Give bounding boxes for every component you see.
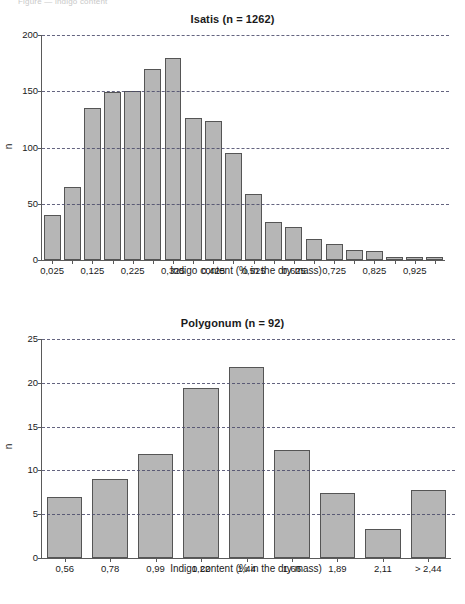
bar	[47, 497, 82, 558]
x-tick-mark	[193, 260, 194, 264]
x-tick-mark	[334, 260, 335, 264]
y-tick-mark	[38, 514, 42, 515]
x-tick-mark	[415, 260, 416, 264]
gridline	[42, 204, 449, 205]
chart-title-polygonum: Polygonum (n = 92)	[0, 316, 465, 330]
x-tick-mark	[113, 260, 114, 264]
y-tick-label: 0	[8, 255, 38, 265]
gridline	[42, 339, 455, 340]
y-tick-mark	[38, 35, 42, 36]
x-tick-mark	[156, 558, 157, 562]
y-tick-label: 100	[8, 143, 38, 153]
x-tick-mark	[274, 260, 275, 264]
x-tick-mark	[292, 558, 293, 562]
y-tick-mark	[38, 558, 42, 559]
x-tick-mark	[92, 260, 93, 264]
y-tick-mark	[38, 339, 42, 340]
x-tick-mark	[247, 558, 248, 562]
plot-wrapper-isatis: n 0501001502000,0250,1250,2250,3250,4250…	[0, 29, 465, 267]
bar	[285, 227, 302, 260]
y-tick-label: 20	[8, 378, 38, 388]
bar	[144, 69, 161, 260]
bar	[411, 490, 446, 558]
bar	[346, 250, 363, 260]
x-tick-mark	[254, 260, 255, 264]
bar	[165, 58, 182, 261]
x-tick-mark	[233, 260, 234, 264]
y-tick-mark	[38, 148, 42, 149]
bar	[274, 450, 309, 558]
plot-area-isatis: 0501001502000,0250,1250,2250,3250,4250,5…	[41, 35, 445, 261]
cut-off-page-header: Figure — indigo content	[18, 0, 238, 6]
x-tick-mark	[72, 260, 73, 264]
bar	[265, 222, 282, 260]
gridline	[42, 427, 455, 428]
x-tick-mark	[133, 260, 134, 264]
y-tick-mark	[38, 383, 42, 384]
bar	[306, 239, 323, 260]
x-tick-mark	[52, 260, 53, 264]
gridline	[42, 514, 455, 515]
bar	[44, 215, 61, 260]
bar	[320, 493, 355, 558]
x-tick-mark	[435, 260, 436, 264]
y-tick-mark	[38, 91, 42, 92]
y-tick-label: 25	[8, 334, 38, 344]
y-tick-label: 50	[8, 199, 38, 209]
plot-area-polygonum: 05101520250,560,780,991,221,441,661,892,…	[41, 339, 451, 559]
x-tick-mark	[173, 260, 174, 264]
bar	[124, 91, 141, 260]
x-tick-mark	[337, 558, 338, 562]
x-tick-mark	[153, 260, 154, 264]
bar	[326, 244, 343, 260]
bar	[205, 121, 222, 261]
x-tick-mark	[65, 558, 66, 562]
x-tick-mark	[354, 260, 355, 264]
gridline	[42, 383, 455, 384]
x-tick-mark	[213, 260, 214, 264]
x-axis-label-isatis: Indigo content (% in the dry mass)	[41, 265, 451, 276]
y-tick-label: 15	[8, 422, 38, 432]
x-tick-mark	[428, 558, 429, 562]
gridline	[42, 148, 449, 149]
x-tick-mark	[201, 558, 202, 562]
bar	[366, 251, 383, 260]
y-tick-mark	[38, 260, 42, 261]
y-tick-mark	[38, 204, 42, 205]
y-tick-label: 5	[8, 509, 38, 519]
bar	[84, 108, 101, 260]
y-tick-label: 10	[8, 466, 38, 476]
chart-polygonum: Polygonum (n = 92) n 05101520250,560,780…	[0, 316, 465, 604]
x-tick-mark	[374, 260, 375, 264]
y-tick-mark	[38, 427, 42, 428]
y-axis-label-polygonum: n	[3, 435, 14, 459]
x-tick-mark	[383, 558, 384, 562]
x-tick-mark	[395, 260, 396, 264]
y-tick-mark	[38, 470, 42, 471]
y-tick-label: 0	[8, 553, 38, 563]
bar	[104, 92, 121, 260]
bar	[64, 187, 81, 260]
bar	[229, 367, 264, 558]
plot-wrapper-polygonum: n 05101520250,560,780,991,221,441,661,89…	[0, 333, 465, 565]
bar	[138, 454, 173, 558]
gridline	[42, 470, 455, 471]
bar	[183, 388, 218, 558]
chart-isatis: Isatis (n = 1262) n 0501001502000,0250,1…	[0, 12, 465, 310]
bar	[225, 153, 242, 260]
bar	[92, 479, 127, 558]
bar	[185, 118, 202, 260]
bar-series-polygonum	[42, 339, 451, 558]
x-tick-mark	[314, 260, 315, 264]
chart-title-isatis: Isatis (n = 1262)	[0, 12, 465, 26]
gridline	[42, 91, 449, 92]
y-tick-label: 150	[8, 87, 38, 97]
x-tick-mark	[110, 558, 111, 562]
x-tick-mark	[294, 260, 295, 264]
y-tick-label: 200	[8, 30, 38, 40]
gridline	[42, 35, 449, 36]
x-axis-label-polygonum: Indigo content (% in the dry mass)	[41, 563, 451, 574]
bar	[365, 529, 400, 558]
